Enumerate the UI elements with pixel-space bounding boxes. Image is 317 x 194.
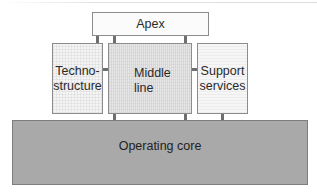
connector-apex-middle-left (113, 36, 116, 43)
technostructure-box: Techno- structure (52, 43, 103, 114)
support-services-label-line1: Support (200, 64, 246, 79)
middle-line-label-line1: Middle (134, 66, 171, 81)
operating-core-box: Operating core (12, 120, 308, 185)
operating-core-label: Operating core (119, 139, 202, 154)
apex-label: Apex (136, 17, 165, 32)
support-services-label-line2: services (200, 79, 246, 94)
top-rule (0, 2, 317, 3)
support-services-box: Support services (197, 43, 248, 114)
middle-line-box: Middle line (108, 43, 192, 114)
apex-box: Apex (92, 12, 209, 36)
connector-apex-technostructure (96, 36, 99, 43)
technostructure-label-line1: Techno- (53, 64, 102, 79)
technostructure-label-line2: structure (53, 79, 102, 94)
middle-line-label-line2: line (134, 81, 171, 96)
connector-apex-middle-right (184, 36, 187, 43)
